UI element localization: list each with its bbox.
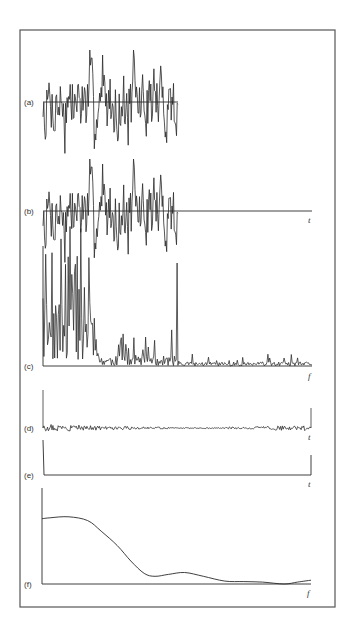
panel-label-e: (e) — [24, 471, 34, 480]
plot-b-padded-signal — [43, 159, 312, 262]
axis-label-d-t: t — [308, 432, 311, 442]
smoothed-spectrum-curve — [42, 517, 311, 584]
panel-label-a: (a) — [24, 98, 34, 107]
plot-e-ideal-autocorrelation — [43, 440, 311, 475]
plot-a-noise-signal — [43, 50, 178, 153]
axis-label-f-f: f — [307, 588, 311, 598]
panel-label-b: (b) — [24, 207, 34, 216]
axis-label-b-t: t — [308, 215, 311, 225]
panel-label-f: (f) — [24, 580, 32, 589]
axis-label-e-t: t — [308, 479, 311, 489]
figure: (a) (b) (c) (d) (e) (f) t f t t f — [0, 0, 351, 634]
plot-d-autocorrelation — [43, 390, 311, 431]
axis-label-c-f: f — [308, 371, 312, 381]
autocorr-trace — [43, 390, 311, 431]
plot-f-smoothed-spectrum — [42, 488, 311, 584]
ideal-autocorr-trace — [43, 440, 311, 475]
panel-label-c: (c) — [24, 362, 34, 371]
panel-label-d: (d) — [24, 424, 34, 433]
plot-c-periodogram — [43, 227, 312, 367]
spectrum-trace — [43, 227, 312, 367]
